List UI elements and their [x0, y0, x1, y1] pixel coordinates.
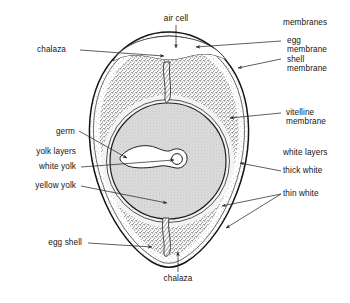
label-yellow-yolk: yellow yolk [8, 181, 76, 191]
leader-thick-white [240, 163, 281, 171]
label-membranes-group: membranes [283, 18, 327, 28]
label-chalaza-bottom: chalaza [154, 274, 202, 284]
label-germ: germ [20, 127, 75, 137]
label-egg-shell: egg shell [24, 238, 82, 248]
germinal-disc [172, 154, 183, 165]
leader-shell-membrane [238, 59, 281, 68]
egg-anatomy-diagram: air cell chalaza membranes egg membrane … [0, 0, 350, 303]
label-white-layers-group: white layers [283, 148, 327, 158]
label-chalaza-top: chalaza [14, 45, 66, 55]
label-thick-white: thick white [283, 166, 322, 176]
label-shell-membrane-line2: membrane [287, 64, 327, 74]
label-thin-white: thin white [283, 189, 319, 199]
label-air-cell: air cell [152, 14, 200, 24]
label-vitelline-line2: membrane [286, 117, 326, 127]
label-white-yolk: white yolk [16, 162, 76, 172]
label-yolk-layers-group: yolk layers [4, 147, 76, 157]
label-egg-membrane-line2: membrane [287, 45, 327, 55]
